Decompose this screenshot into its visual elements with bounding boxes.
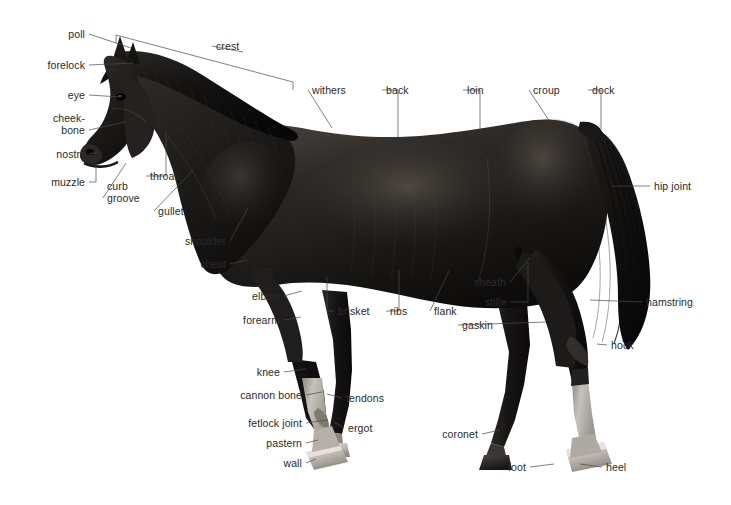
label-throat: throat — [150, 170, 192, 182]
horse-anatomy-diagram: pollcrestforelockwithersbackloincroupdoc… — [0, 0, 731, 505]
label-hock: hock — [611, 339, 643, 351]
label-gullet: gullet — [158, 205, 196, 217]
label-forearm: forearm — [228, 314, 280, 326]
label-back: back — [386, 84, 418, 96]
label-knee: knee — [228, 366, 280, 378]
label-cannonbone: cannon bone — [222, 389, 302, 401]
label-withers: withers — [312, 84, 358, 96]
label-flank: flank — [434, 305, 467, 317]
label-elbow: elbow — [228, 290, 280, 302]
label-pastern: pastern — [222, 437, 302, 449]
label-dock: dock — [592, 84, 625, 96]
label-nostril: nostril — [27, 148, 85, 160]
label-sheath: sheath — [458, 276, 506, 288]
label-ribs: ribs — [390, 305, 416, 317]
label-croup: croup — [533, 84, 571, 96]
label-hipjoint: hip joint — [654, 180, 706, 192]
label-hamstring: hamstring — [646, 296, 706, 308]
label-wall: wall — [222, 457, 302, 469]
label-forelock: forelock — [16, 59, 85, 71]
label-eye: eye — [27, 89, 85, 101]
label-loin: loin — [467, 84, 495, 96]
label-cheekbone: cheek- bone — [20, 112, 85, 136]
label-gaskin: gaskin — [462, 319, 504, 331]
label-brisket: brisket — [338, 305, 381, 317]
anatomy-labels: pollcrestforelockwithersbackloincroupdoc… — [0, 0, 731, 505]
label-muzzle: muzzle — [22, 176, 85, 188]
label-heel: heel — [606, 461, 636, 473]
label-shoulder: shoulder — [163, 235, 226, 247]
label-chest: chest — [163, 258, 226, 270]
label-ergot: ergot — [348, 422, 383, 434]
label-foot: foot — [490, 461, 526, 473]
label-curbgroove: curb groove — [107, 180, 155, 204]
label-tendons: tendons — [346, 392, 393, 404]
label-poll: poll — [27, 28, 85, 40]
label-coronet: coronet — [426, 428, 478, 440]
label-stifle: stifle — [466, 296, 507, 308]
label-crest: crest — [216, 40, 266, 52]
label-fetlockjoint: fetlock joint — [222, 417, 302, 429]
